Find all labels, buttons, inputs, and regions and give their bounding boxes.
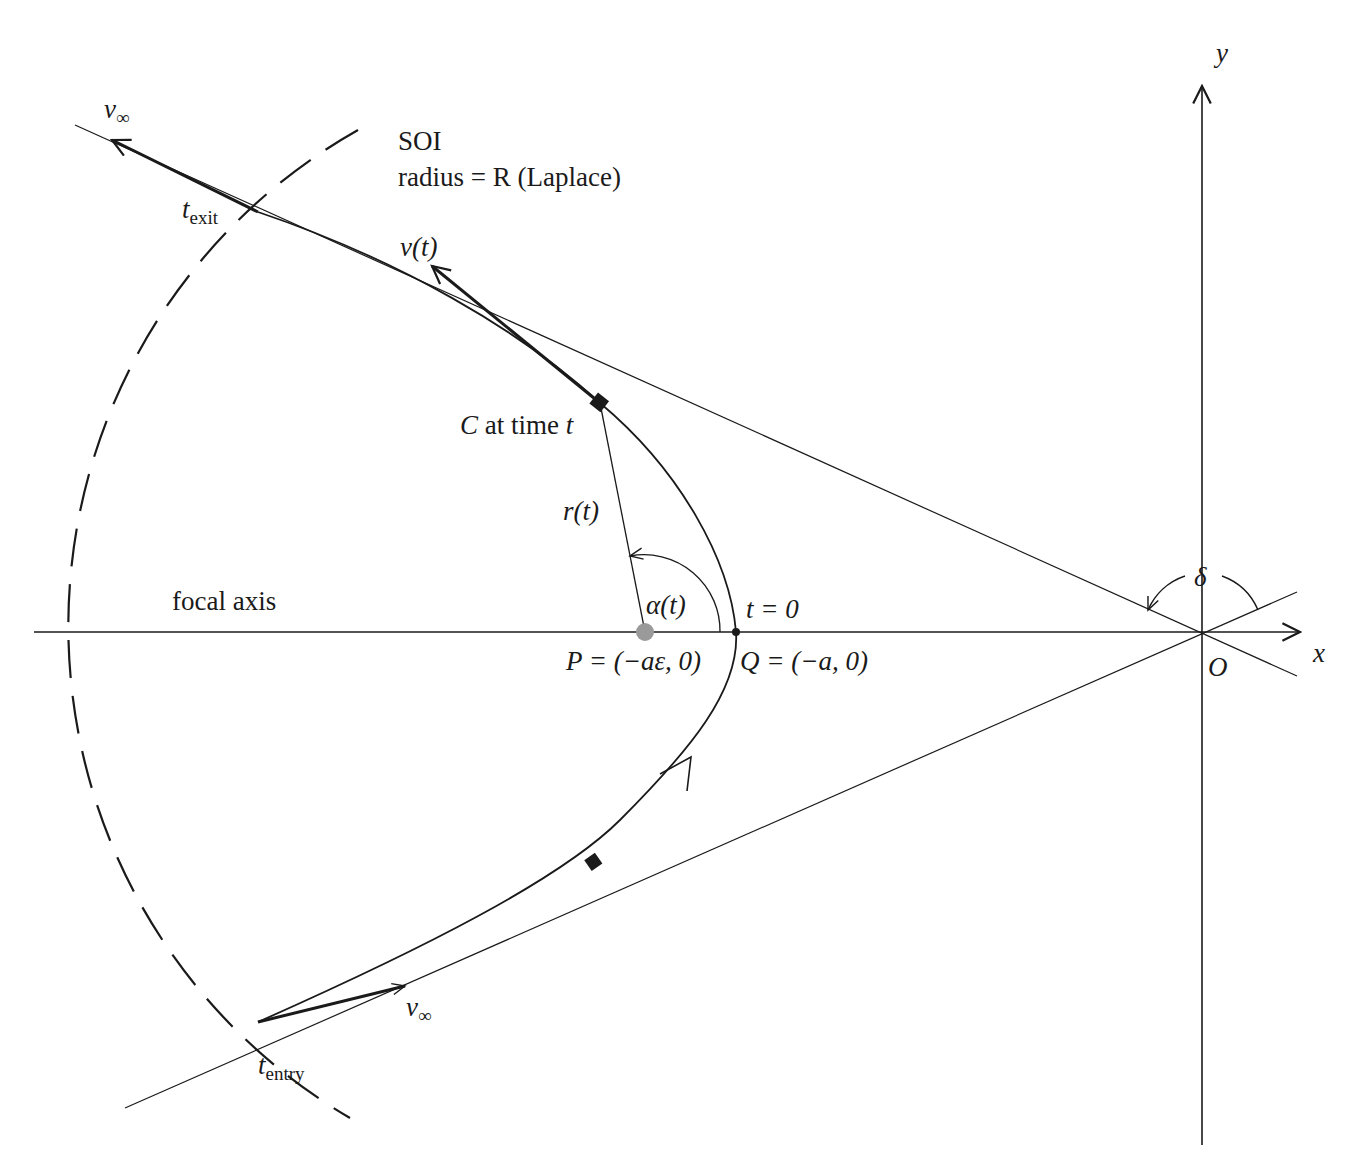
v-inf-entry-label: v∞: [406, 994, 432, 1025]
t-zero-label: t = 0: [746, 596, 799, 623]
trajectory-marker-lower: [584, 853, 602, 871]
t-entry-label: tentry: [258, 1052, 305, 1083]
soi-title: SOI: [398, 128, 442, 155]
t-exit-label: texit: [182, 196, 218, 227]
v-t-label: v(t): [400, 234, 437, 261]
delta-angle-arc-left: [1148, 576, 1185, 610]
v-inf-exit-label: v∞: [104, 96, 130, 127]
velocity-vector: [432, 266, 600, 403]
soi-circle: [68, 130, 358, 1118]
p-point-label: P = (−aε, 0): [566, 648, 701, 675]
vertex-point-q: [732, 628, 740, 636]
x-axis-label: x: [1313, 640, 1325, 667]
radius-line: [600, 403, 645, 632]
alpha-t-label: α(t): [646, 592, 686, 619]
delta-label: δ: [1194, 564, 1207, 591]
lower-asymptote: [125, 592, 1297, 1108]
r-t-label: r(t): [563, 498, 599, 525]
focus-point-p: [636, 623, 654, 641]
focal-axis-label: focal axis: [172, 588, 276, 615]
q-point-label: Q = (−a, 0): [740, 648, 868, 675]
y-axis-label: y: [1216, 40, 1228, 67]
origin-label: O: [1208, 654, 1228, 681]
flyby-diagram: [0, 0, 1360, 1169]
soi-radius-label: radius = R (Laplace): [398, 164, 621, 191]
delta-angle-arc: [1222, 576, 1258, 610]
c-at-time-label: C at time t: [460, 412, 573, 439]
